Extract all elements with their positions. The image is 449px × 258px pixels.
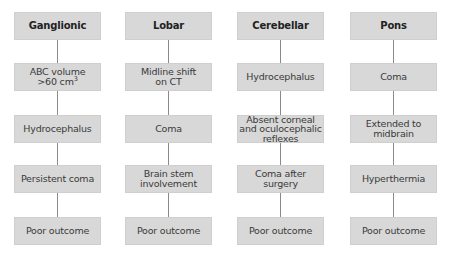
step-label: Hydrocephalus [246,72,314,83]
outcome-box: Poor outcome [14,217,101,245]
header-box: Pons [350,12,437,40]
step-box: Coma [350,63,437,91]
header-label: Ganglionic [29,21,86,32]
step-box: Persistent coma [14,165,101,193]
connector-line [280,143,281,165]
column-lobar: Lobar Midline shift on CT Coma Brain ste… [125,0,212,258]
header-label: Pons [380,21,406,32]
connector-line [57,40,58,63]
connector-line [57,193,58,217]
column-ganglionic: Ganglionic ABC volume>60 cm3 Hydrocephal… [14,0,101,258]
connector-line [280,40,281,63]
step-label: Midline shift on CT [139,67,199,88]
connector-line [168,91,169,115]
step-label: Poor outcome [26,226,89,237]
step-label: ABC volume>60 cm3 [30,67,86,88]
connector-line [168,193,169,217]
step-label: Persistent coma [21,174,94,185]
step-label: Hydrocephalus [23,124,91,135]
step-label: Extended to midbrain [363,119,425,140]
connector-line [168,40,169,63]
header-box: Cerebellar [237,12,324,40]
step-label: Absent corneal and oculocephalic reflexe… [238,115,323,144]
step-label: Poor outcome [137,226,200,237]
header-box: Lobar [125,12,212,40]
column-pons: Pons Coma Extended to midbrain Hyperther… [350,0,437,258]
outcome-box: Poor outcome [350,217,437,245]
header-box: Ganglionic [14,12,101,40]
outcome-box: Poor outcome [125,217,212,245]
step-label: Hyperthermia [362,174,425,185]
header-label: Cerebellar [252,21,308,32]
connector-line [57,143,58,165]
step-label: Poor outcome [249,226,312,237]
step-box: Hyperthermia [350,165,437,193]
step-box: Brain stem involvement [125,165,212,193]
step-label: Coma after surgery [253,169,309,190]
step-box: Coma [125,115,212,143]
connector-line [393,40,394,63]
connector-line [168,143,169,165]
step-box: Midline shift on CT [125,63,212,91]
step-label: Poor outcome [362,226,425,237]
connector-line [280,193,281,217]
connector-line [393,193,394,217]
connector-line [393,91,394,115]
step-label: Brain stem involvement [137,169,201,190]
step-label: Coma [380,72,407,83]
connector-line [280,91,281,115]
connector-line [57,91,58,115]
column-cerebellar: Cerebellar Hydrocephalus Absent corneal … [237,0,324,258]
header-label: Lobar [153,21,184,32]
step-box: ABC volume>60 cm3 [14,63,101,91]
step-label: Coma [155,124,182,135]
step-box: Hydrocephalus [14,115,101,143]
connector-line [393,143,394,165]
step-box: Absent corneal and oculocephalic reflexe… [237,115,324,143]
outcome-box: Poor outcome [237,217,324,245]
step-box: Extended to midbrain [350,115,437,143]
step-box: Coma after surgery [237,165,324,193]
step-box: Hydrocephalus [237,63,324,91]
